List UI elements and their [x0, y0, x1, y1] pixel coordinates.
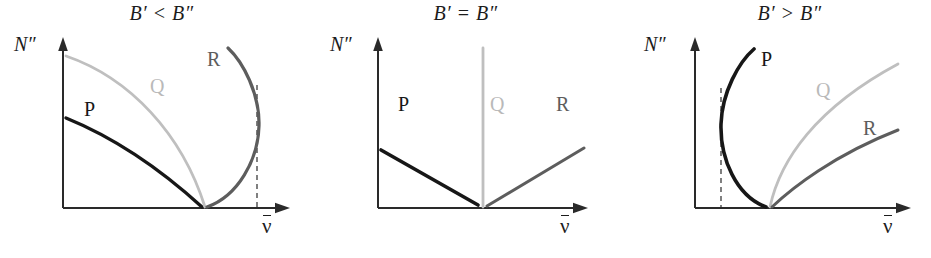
x-axis-label: ν — [883, 215, 893, 235]
x-axis — [63, 203, 290, 213]
y-axis-label: N″ — [330, 33, 352, 56]
x-axis — [695, 203, 911, 213]
nu-glyph: ν — [262, 217, 272, 235]
branch-curve-P — [721, 49, 766, 207]
branch-label-Q: Q — [490, 93, 504, 116]
x-axis-label: ν — [262, 215, 272, 235]
fortrat-diagram-figure: B′ < B″ N″ ν P Q — [0, 0, 931, 258]
branch-label-Q: Q — [816, 79, 830, 102]
panel-b-equal: B′ = B″ N″ ν P Q R — [310, 0, 621, 258]
branch-label-P: P — [398, 93, 409, 116]
y-axis-label: N″ — [644, 33, 666, 56]
branch-curve-Q — [770, 64, 898, 207]
nu-glyph: ν — [883, 217, 893, 235]
panel-plot-area — [310, 0, 621, 258]
panel-b-greater-than: B′ > B″ N″ ν P Q R — [620, 0, 931, 258]
branch-curve-P — [66, 118, 202, 207]
nu-glyph: ν — [560, 217, 570, 235]
branch-label-P: P — [84, 98, 95, 121]
y-axis — [373, 37, 383, 208]
branch-label-R: R — [556, 93, 569, 116]
x-axis-label: ν — [560, 215, 570, 235]
branch-curve-Q — [66, 56, 205, 207]
branch-label-P: P — [761, 48, 772, 71]
branch-curve-P — [381, 150, 478, 205]
branch-curve-R — [772, 130, 898, 207]
y-axis — [690, 37, 700, 208]
branch-label-Q: Q — [150, 75, 164, 98]
branch-label-R: R — [863, 117, 876, 140]
panel-b-less-than: B′ < B″ N″ ν P Q — [0, 0, 311, 258]
branch-label-R: R — [207, 48, 220, 71]
y-axis — [58, 37, 68, 208]
branch-curve-R — [207, 48, 259, 207]
y-axis-label: N″ — [14, 33, 36, 56]
branch-curve-R — [487, 148, 584, 206]
